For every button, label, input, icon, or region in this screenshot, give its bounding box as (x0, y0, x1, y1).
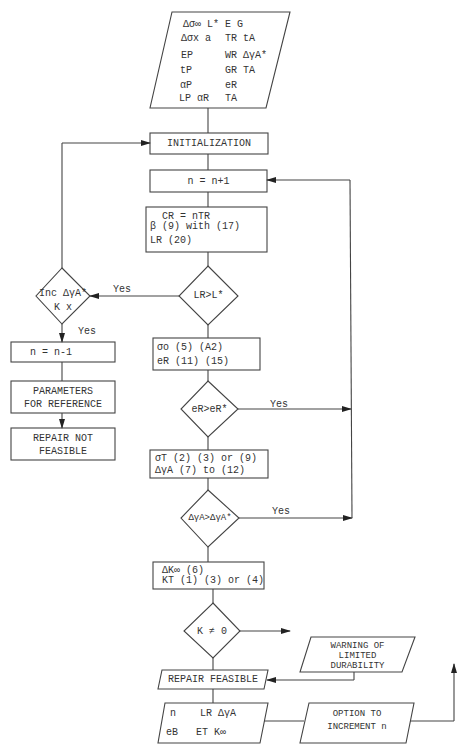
warning-line-3: DURABILITY (300, 661, 415, 672)
input-row-6-left: LP αR (179, 93, 209, 104)
parameters-line-1: PARAMETERS (11, 386, 115, 397)
parameters-line-2: FOR REFERENCE (11, 399, 115, 410)
input-parameters-shape (150, 12, 290, 108)
compute-stress-line-2: eR (11) (15) (157, 356, 229, 367)
output-line-2: eB ET K∞ (166, 727, 226, 738)
edge-label-yes-gamma: Yes (272, 506, 290, 517)
input-row-2-left: Δσx a (181, 33, 211, 44)
not-feasible-line-2: FEASIBLE (11, 446, 115, 457)
decision-length-exceeded: LR>L* (179, 290, 238, 301)
edge-label-yes-strain: Yes (270, 399, 288, 410)
input-row-5-left: αP (180, 80, 192, 91)
compute-length-line-2: β (9) with (17) (150, 221, 240, 232)
flowchart-connectors (0, 0, 468, 750)
input-row-2-right: TR tA (225, 33, 255, 44)
initialization-box: INITIALIZATION (150, 138, 268, 149)
output-line-1: n LR ΔγA (170, 708, 236, 719)
not-feasible-line-1: REPAIR NOT (11, 433, 115, 444)
compute-shear-line-1: σT (2) (3) or (9) (155, 453, 257, 464)
input-row-5-right: eR (225, 80, 237, 91)
compute-stress-line-1: σo (5) (A2) (157, 342, 223, 353)
input-row-6-right: TA (225, 93, 237, 104)
decision-k-nonzero: K ≠ 0 (184, 626, 240, 637)
edge-label-yes-length: Yes (113, 284, 131, 295)
decision-gamma-exceeded: ΔγA>ΔγA* (181, 513, 239, 524)
input-row-1-right: E G (225, 19, 243, 30)
input-row-3-right: WR ΔγA* (225, 50, 267, 61)
decision-inc-line-1: Inc ΔγA* (36, 288, 90, 299)
compute-stiffness-line-2: KT (1) (3) or (4) (162, 575, 264, 586)
input-row-1-left: Δσ∞ L* (183, 19, 219, 30)
compute-length-line-3: LR (20) (150, 235, 192, 246)
repair-feasible-box: REPAIR FEASIBLE (158, 674, 268, 685)
decision-strain-exceeded: eR>eR* (181, 404, 238, 415)
input-row-4-left: tP (180, 65, 192, 76)
increment-n-box: n = n+1 (150, 176, 267, 187)
compute-shear-line-2: ΔγA (7) to (12) (155, 465, 245, 476)
decrement-n-box: n = n-1 (30, 347, 72, 358)
option-line-1: OPTION TO (300, 709, 414, 720)
input-row-4-right: GR TA (225, 65, 255, 76)
edge-label-yes-inc: Yes (78, 326, 96, 337)
option-line-2: INCREMENT n (300, 722, 414, 733)
input-row-3-left: EP (181, 50, 193, 61)
decision-inc-line-2: K x (36, 302, 90, 313)
